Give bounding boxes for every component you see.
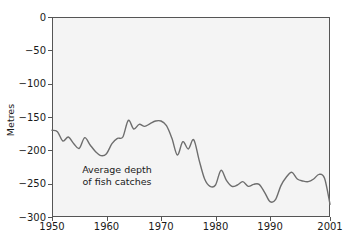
y-tick-label: 0	[40, 12, 46, 23]
y-tick-label: −150	[19, 112, 46, 123]
x-tick-label: 1960	[94, 221, 119, 232]
annotation-line-1: Average depth	[82, 164, 152, 175]
annotation-line-2: of fish catches	[83, 176, 152, 187]
y-axis-title: Metres	[5, 104, 16, 136]
chart-figure: 0−50−100−150−200−250−300 195019601970198…	[0, 0, 347, 240]
y-tick-label: −100	[19, 78, 46, 89]
x-tick-label: 1970	[148, 221, 173, 232]
plot-area-background	[52, 17, 330, 217]
x-tick-label: 2001	[317, 221, 342, 232]
y-tick-label: −50	[25, 45, 46, 56]
x-tick-label: 1990	[257, 221, 282, 232]
y-tick-label: −200	[19, 145, 46, 156]
fish-catch-depth-line-chart: 0−50−100−150−200−250−300 195019601970198…	[0, 0, 347, 240]
x-tick-label: 1980	[203, 221, 228, 232]
x-tick-label: 1950	[39, 221, 64, 232]
y-tick-label: −250	[19, 178, 46, 189]
